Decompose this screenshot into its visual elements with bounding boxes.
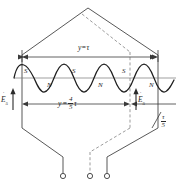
dimension-chord-offset: [131, 102, 176, 128]
terminals-group: [60, 173, 109, 178]
full-pitch-arrow-left: [22, 55, 28, 60]
winding-diagram-figure: y=τ y = 4 5 τ ̇ E5 ̇ E5 τ 5 S N S N S N: [0, 0, 181, 185]
emf-right-arrow-head: [133, 88, 138, 94]
dashed-bottom-winding: [90, 128, 130, 152]
chorded-pitch-fraction: 4 5: [68, 96, 73, 111]
pole-label-1: S: [24, 68, 28, 75]
full-pitch-value: τ: [86, 43, 89, 52]
full-pitch-label: y=τ: [78, 44, 89, 52]
chord-offset-label: τ 5: [161, 112, 166, 129]
chorded-pitch-arrow-right: [124, 102, 130, 107]
chorded-pitch-label: y = 4 5 τ: [58, 96, 77, 111]
chorded-pitch-denominator: 5: [68, 104, 73, 111]
emf-right-symbol: E: [138, 95, 143, 104]
emf-right-label: ̇ E5: [138, 96, 145, 106]
terminal-middle[interactable]: [87, 173, 92, 178]
coil-top-end-winding: [22, 8, 158, 55]
emf-left-symbol: E: [1, 95, 6, 104]
chord-offset-leader: [152, 112, 161, 128]
chorded-pitch-variable: y: [58, 100, 61, 108]
coil-bottom-right-winding: [107, 128, 158, 157]
chorded-pitch-unit: τ: [74, 100, 77, 108]
full-pitch-arrow-right: [152, 55, 158, 60]
coil-outline-dashed: [82, 14, 130, 173]
chorded-pitch-equals: =: [62, 100, 67, 108]
chord-offset-denominator: 5: [161, 122, 166, 129]
pole-label-2: N: [47, 82, 52, 89]
coil-bottom-left-winding: [22, 128, 63, 157]
pole-label-6: N: [149, 82, 154, 89]
coil-outline-solid: [22, 8, 158, 173]
pole-label-5: S: [122, 68, 126, 75]
pole-label-4: N: [98, 82, 103, 89]
chorded-pitch-arrow-left: [22, 102, 28, 107]
emf-left-arrow-head: [10, 88, 15, 94]
diagram-canvas: [0, 0, 181, 185]
terminal-right[interactable]: [104, 173, 109, 178]
pole-label-3: S: [72, 68, 76, 75]
emf-left-label: ̇ E5: [1, 96, 8, 106]
dimension-full-pitch: [22, 50, 158, 62]
terminal-left[interactable]: [60, 173, 65, 178]
chord-offset-fraction: τ 5: [161, 114, 166, 129]
